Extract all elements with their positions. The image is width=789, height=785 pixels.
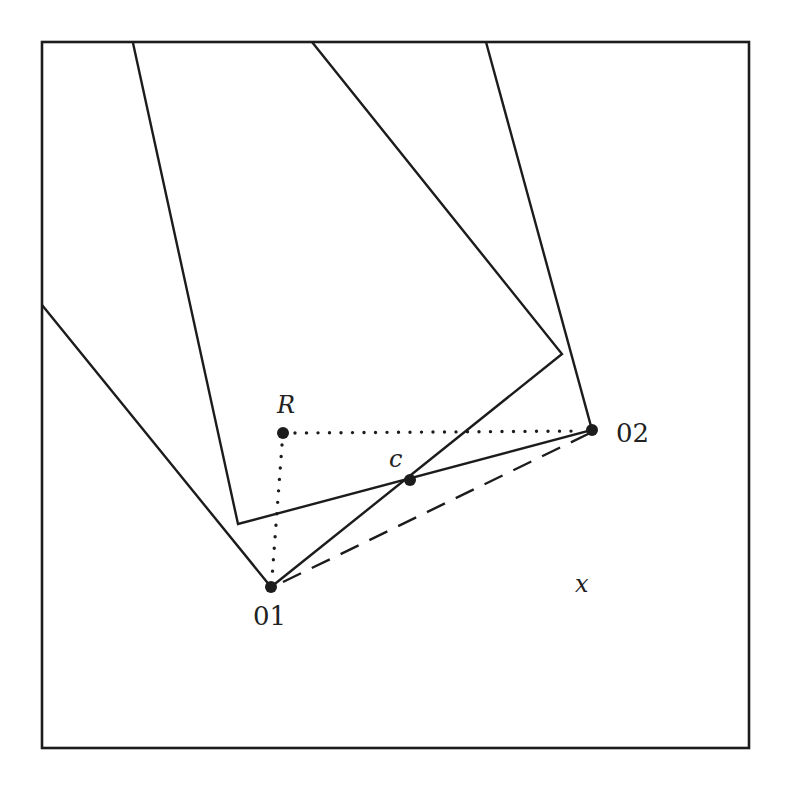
point-r	[277, 427, 289, 439]
rectangle-b	[42, 42, 562, 587]
label-o1: 01	[253, 601, 286, 631]
label-o2: 02	[616, 418, 649, 448]
point-o2	[586, 424, 598, 436]
dotted-line-r-to-o2	[295, 431, 582, 433]
rotation-diagram: R c 01 02 x	[0, 0, 789, 785]
label-c: c	[389, 445, 402, 473]
rectangle-a	[133, 42, 592, 524]
point-c	[404, 474, 416, 486]
label-x: x	[575, 570, 589, 598]
point-o1	[265, 581, 277, 593]
label-r: R	[276, 391, 295, 419]
